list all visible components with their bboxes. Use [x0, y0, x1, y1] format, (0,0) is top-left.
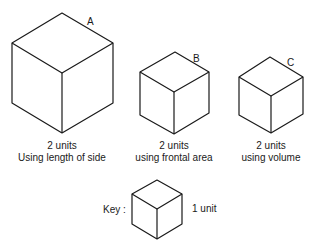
cube-c-caption: 2 units using volume [242, 140, 301, 164]
key-cube [132, 180, 182, 239]
cube-b-label: B [193, 53, 200, 65]
cube-a-label: A [87, 16, 94, 28]
cube-b-method: using frontal area [135, 152, 212, 164]
key-label: Key : [103, 204, 126, 216]
cube-b-caption: 2 units using frontal area [135, 140, 212, 164]
cube-c-units: 2 units [242, 140, 301, 152]
cube-c-method: using volume [242, 152, 301, 164]
cube-c-label: C [287, 57, 294, 69]
cubes-diagram [0, 0, 317, 249]
cube-a-method: Using length of side [18, 152, 106, 164]
cube-b-units: 2 units [135, 140, 212, 152]
cube-a-caption: 2 units Using length of side [18, 140, 106, 164]
cube-a-units: 2 units [18, 140, 106, 152]
cube-a [12, 13, 113, 133]
key-value: 1 unit [192, 203, 216, 215]
